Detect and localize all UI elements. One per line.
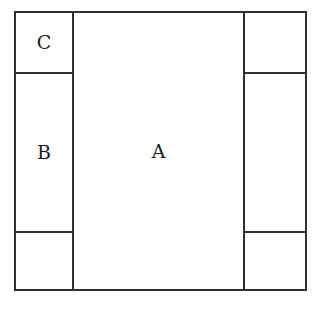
region-cell-left-bottom (16, 233, 72, 289)
region-cell-right-bottom (245, 233, 305, 289)
region-label-b: B (16, 74, 72, 231)
diagram-canvas: C B A (0, 0, 321, 310)
region-label-c: C (16, 13, 72, 72)
region-cell-right-middle (245, 74, 305, 231)
region-cell-right-top (245, 13, 305, 72)
region-label-a: A (74, 13, 243, 289)
